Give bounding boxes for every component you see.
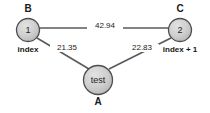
node-c-id-label: C bbox=[152, 4, 208, 14]
node-b-caption: index bbox=[0, 46, 56, 54]
edge-weight-b-c: 42.94 bbox=[87, 22, 123, 30]
edge-weight-c-a: 22.83 bbox=[125, 44, 159, 52]
node-b-value: 1 bbox=[0, 26, 56, 35]
graph-diagram: B 1 index C 2 index + 1 test A 42.94 21.… bbox=[0, 0, 210, 113]
edge-weight-b-a: 21.35 bbox=[50, 44, 84, 52]
node-c-value: 2 bbox=[152, 26, 208, 35]
node-a-id-label: A bbox=[70, 97, 126, 107]
node-c-caption: index + 1 bbox=[152, 46, 208, 54]
node-b-id-label: B bbox=[0, 4, 56, 14]
node-a-value: test bbox=[70, 76, 126, 85]
